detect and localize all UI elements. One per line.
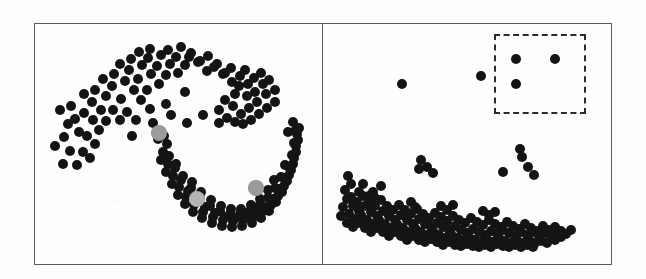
data-point xyxy=(203,51,213,61)
data-point xyxy=(214,118,224,128)
data-point xyxy=(370,193,380,203)
data-point xyxy=(72,160,82,170)
data-point xyxy=(216,201,226,211)
data-point xyxy=(133,74,143,84)
data-point xyxy=(79,108,89,118)
data-point xyxy=(85,153,95,163)
data-point xyxy=(289,138,299,148)
data-point xyxy=(410,202,420,212)
data-point xyxy=(261,89,271,99)
data-point xyxy=(109,69,119,79)
data-point xyxy=(529,170,539,180)
data-point xyxy=(120,76,130,86)
data-point xyxy=(517,152,527,162)
data-point xyxy=(250,87,260,97)
data-point xyxy=(255,194,265,204)
highlighted-data-point xyxy=(152,126,167,141)
data-point xyxy=(264,75,274,85)
data-point xyxy=(528,242,538,252)
data-point xyxy=(376,181,386,191)
data-point xyxy=(230,89,240,99)
data-point xyxy=(94,125,104,135)
data-point xyxy=(166,110,176,120)
data-point xyxy=(90,139,100,149)
data-point xyxy=(270,97,280,107)
data-point xyxy=(122,107,132,117)
data-point xyxy=(145,104,155,114)
data-point xyxy=(182,118,192,128)
data-point xyxy=(70,114,80,124)
data-point xyxy=(59,132,69,142)
data-point xyxy=(176,42,186,52)
data-point xyxy=(236,204,246,214)
data-point xyxy=(240,65,250,75)
data-point xyxy=(288,117,298,127)
data-point xyxy=(173,190,183,200)
data-point xyxy=(79,89,89,99)
embedding-scatter-panel[interactable] xyxy=(322,23,612,265)
data-point xyxy=(448,200,458,210)
data-point xyxy=(246,200,256,210)
data-point xyxy=(74,127,84,137)
data-point xyxy=(476,71,486,81)
data-point xyxy=(552,225,562,235)
data-point xyxy=(152,61,162,71)
data-point xyxy=(98,74,108,84)
data-point xyxy=(107,81,117,91)
data-point xyxy=(428,168,438,178)
data-point xyxy=(87,97,97,107)
data-point xyxy=(136,95,146,105)
data-point xyxy=(129,85,139,95)
data-point xyxy=(115,115,125,125)
data-point xyxy=(226,63,236,73)
data-point xyxy=(217,221,227,231)
data-point xyxy=(263,185,273,195)
data-point xyxy=(287,150,297,160)
data-point xyxy=(101,91,111,101)
data-point xyxy=(187,177,197,187)
data-point xyxy=(88,115,98,125)
data-point xyxy=(397,79,407,89)
data-point xyxy=(498,167,508,177)
data-point xyxy=(124,65,134,75)
data-point xyxy=(115,59,125,69)
data-point xyxy=(566,225,576,235)
data-point xyxy=(163,45,173,55)
data-point xyxy=(180,87,190,97)
data-point xyxy=(226,204,236,214)
highlighted-data-point xyxy=(249,181,264,196)
data-point xyxy=(50,141,60,151)
data-point xyxy=(134,47,144,57)
highlighted-data-point xyxy=(190,192,205,207)
data-point xyxy=(184,52,194,62)
data-point xyxy=(228,101,238,111)
data-point xyxy=(197,213,207,223)
data-point xyxy=(209,62,219,72)
data-point xyxy=(96,105,106,115)
data-point xyxy=(237,221,247,231)
data-point xyxy=(269,175,279,185)
data-point xyxy=(490,207,500,217)
two-moons-scatter-panel[interactable] xyxy=(34,23,323,265)
data-point xyxy=(90,85,100,95)
data-point xyxy=(161,99,171,109)
data-point xyxy=(171,52,181,62)
data-point xyxy=(116,94,126,104)
right-plot-area[interactable] xyxy=(323,24,611,264)
data-point xyxy=(283,127,293,137)
data-point xyxy=(207,218,217,228)
data-point xyxy=(198,110,208,120)
data-point xyxy=(206,195,216,205)
left-plot-area[interactable] xyxy=(35,24,322,264)
data-point xyxy=(220,95,230,105)
data-point xyxy=(414,164,424,174)
data-point xyxy=(66,101,76,111)
figure-canvas xyxy=(0,0,646,279)
data-point xyxy=(131,115,141,125)
data-point xyxy=(171,159,181,169)
data-point xyxy=(65,146,75,156)
data-point xyxy=(154,79,164,89)
dashed-selection-rectangle[interactable] xyxy=(494,34,586,114)
data-point xyxy=(270,85,280,95)
data-point xyxy=(227,222,237,232)
